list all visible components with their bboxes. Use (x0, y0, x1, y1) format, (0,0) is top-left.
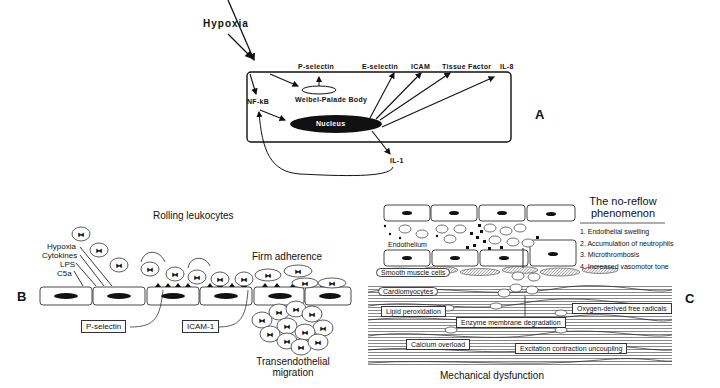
no-reflow-title-line1: The no-reflow (583, 195, 663, 207)
no-reflow-title-line2: phenomenon (583, 207, 663, 219)
list-item: 3. Microthrombosis (580, 249, 673, 261)
list-item: 1. Endothelial swelling (580, 226, 673, 238)
no-reflow-title: The no-reflow phenomenon (583, 195, 663, 219)
enzyme-degradation-box: Enzyme membrane degradation (456, 317, 566, 328)
smooth-muscle-label: Smooth muscle cells (376, 268, 450, 277)
oxygen-radicals-box: Oxygen-derived free radicals (572, 303, 672, 314)
list-item: 4. Increased vasomotor tone (580, 261, 673, 273)
list-item: 2. Accumulation of neutrophils (580, 238, 673, 250)
mechanical-dysfunction-label: Mechanical dysfunction (440, 370, 544, 381)
panel-c-letter: C (685, 291, 694, 306)
lipid-peroxidation-box: Lipid peroxidation (381, 306, 446, 317)
excitation-uncoupling-box: Excitation contraction uncoupling (515, 343, 627, 354)
no-reflow-list: 1. Endothelial swelling 2. Accumulation … (580, 226, 673, 272)
calcium-overload-box: Calcium overload (406, 339, 470, 350)
cardiomyocytes-label: Cardiomyocytes (378, 287, 438, 296)
endothelium-label: Endothelium (388, 241, 427, 248)
panel-c-graphics (0, 0, 720, 388)
